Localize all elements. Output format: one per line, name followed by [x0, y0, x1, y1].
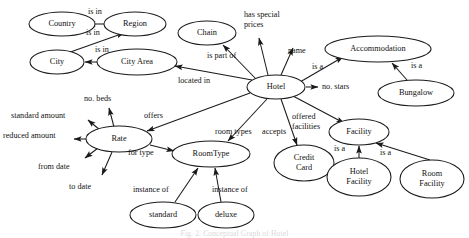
node-label-hotelfacility: Hotel	[350, 167, 369, 176]
edge-label-standard-roomtype: instance of	[133, 185, 169, 194]
edge-label-rate-stdamount: standard amount	[11, 111, 66, 120]
edge-label-rate-nobeds: no. beds	[84, 94, 111, 103]
edge-label-hotel-accepts: accepts	[262, 127, 286, 136]
node-city[interactable]: City	[30, 50, 84, 74]
node-accommodation[interactable]: Accommodation	[325, 36, 431, 62]
node-label-cityarea: City Area	[121, 57, 153, 66]
node-deluxe[interactable]: deluxe	[198, 202, 254, 228]
concept-graph: CountryRegionCityCity AreaChainHotelAcco…	[0, 0, 469, 238]
edge-label-rate-fortype: for type	[128, 148, 154, 157]
edge-label-hotel-accom: is a	[312, 62, 324, 71]
edge-bungalow-accom	[392, 63, 407, 80]
node-cityarea[interactable]: City Area	[97, 49, 177, 75]
edge-label-hotel-offfac: facilities	[292, 122, 320, 131]
edge-label-hotel-special: has special	[244, 10, 280, 19]
node-roomtype[interactable]: RoomType	[172, 141, 250, 167]
edge-label-hotel-special: prices	[244, 20, 264, 29]
node-chain[interactable]: Chain	[178, 21, 236, 45]
edge-label-city-region: is in	[86, 28, 100, 37]
node-label-creditcard: Card	[296, 163, 313, 172]
node-label-accommodation: Accommodation	[350, 44, 406, 53]
node-roomfacility[interactable]: RoomFacility	[400, 160, 464, 198]
edge-standard-roomtype	[175, 168, 198, 202]
edge-label-bungalow-accom: is a	[411, 61, 423, 70]
edge-label-hotel-name: name	[288, 46, 306, 55]
node-creditcard[interactable]: CreditCard	[274, 145, 334, 181]
node-facility[interactable]: Facility	[329, 119, 389, 145]
node-label-rate: Rate	[111, 134, 127, 143]
node-bungalow[interactable]: Bungalow	[378, 80, 454, 106]
node-label-chain: Chain	[197, 28, 218, 37]
node-label-facility: Facility	[346, 127, 372, 136]
edge-label-hotel-offers: offers	[144, 111, 163, 120]
figure-caption: Fig. 2. Conceptual Graph of Hotel	[0, 229, 469, 238]
edge-label-region-country: is in	[88, 7, 102, 16]
edge-label-deluxe-roomtype: instance of	[212, 185, 248, 194]
edge-rate-fromdate	[85, 148, 98, 158]
edge-hotel-special	[259, 38, 268, 75]
node-label-roomfacility: Facility	[419, 179, 445, 188]
edge-label-rate-reduced: reduced amount	[3, 131, 56, 140]
edge-label-hotel-offfac: offered	[292, 112, 316, 121]
node-label-roomtype: RoomType	[193, 149, 230, 158]
edge-label-rate-fromdate: from date	[38, 162, 70, 171]
node-label-bungalow: Bungalow	[399, 88, 433, 97]
node-label-deluxe: deluxe	[215, 210, 237, 219]
edge-label-hotelfac-facility: is a	[334, 144, 346, 153]
diagram-canvas: CountryRegionCityCity AreaChainHotelAcco…	[0, 0, 469, 238]
edge-label-hotel-cityarea: located in	[178, 76, 210, 85]
node-label-region: Region	[123, 19, 148, 28]
node-label-city: City	[50, 57, 65, 66]
node-label-hotel: Hotel	[267, 82, 286, 91]
edge-label-roomfac-facility: is a	[380, 148, 392, 157]
edge-rate-todate	[102, 152, 112, 175]
edge-rate-nobeds	[109, 108, 114, 127]
node-label-standard: standard	[149, 210, 178, 219]
edge-label-hotel-roomtypes: room types	[215, 127, 252, 136]
edge-label-cityarea-city: is in	[95, 45, 109, 54]
node-region[interactable]: Region	[104, 12, 166, 36]
node-label-country: Country	[48, 19, 76, 28]
edge-label-rate-todate: to date	[69, 182, 91, 191]
node-label-hotelfacility: Facility	[346, 177, 372, 186]
edge-label-hotel-chain: is part of	[207, 51, 236, 60]
node-hotelfacility[interactable]: HotelFacility	[327, 158, 391, 196]
node-label-creditcard: Credit	[294, 153, 315, 162]
node-label-roomfacility: Room	[422, 169, 443, 178]
edge-label-hotel-stars: no. stars	[322, 82, 349, 91]
node-hotel[interactable]: Hotel	[247, 75, 305, 99]
node-standard[interactable]: standard	[130, 202, 196, 228]
